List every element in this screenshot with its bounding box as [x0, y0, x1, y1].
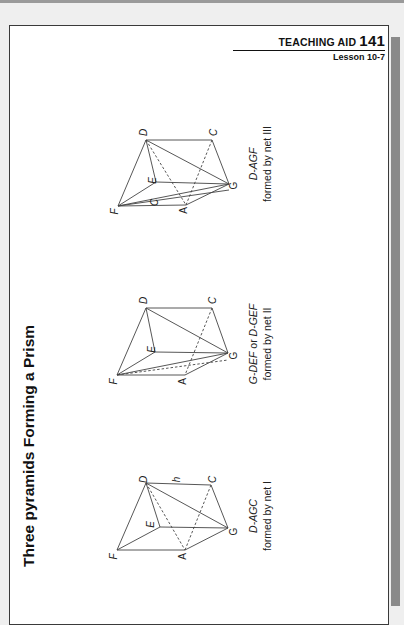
label-D: D	[138, 129, 149, 136]
label-E: E	[147, 177, 158, 184]
pyramid-name: D-AGC	[247, 499, 259, 533]
label-C-hidden: C	[149, 199, 160, 206]
label-C: C	[207, 476, 218, 483]
label-D: D	[138, 297, 149, 304]
pyramid-name-a: G-DEF	[247, 352, 259, 385]
pyramid-desc: formed by net III	[260, 114, 274, 214]
label-G: G	[228, 528, 239, 536]
label-D: D	[138, 476, 149, 483]
label-A: A	[177, 378, 188, 385]
caption-net-I: D-AGC formed by net I	[246, 466, 274, 566]
or-text: or	[247, 336, 259, 351]
pyramid-name-b: D-GEF	[247, 304, 259, 337]
label-E: E	[145, 521, 156, 528]
pyramid-name: D-AGF	[247, 148, 259, 181]
figure-net-I	[117, 483, 228, 550]
page-title: Three pyramids Forming a Prism	[20, 327, 38, 567]
label-G: G	[228, 182, 239, 190]
label-F: F	[108, 553, 119, 559]
pyramid-desc: formed by net II	[260, 294, 274, 394]
label-F: F	[108, 378, 119, 384]
label-h: h	[171, 477, 182, 483]
label-A: A	[177, 553, 188, 560]
figure-net-III	[118, 140, 229, 206]
caption-net-III: D-AGF formed by net III	[246, 114, 274, 214]
figure-net-II	[117, 308, 228, 375]
pyramid-desc: formed by net I	[260, 466, 274, 566]
label-F: F	[109, 208, 120, 214]
label-C: C	[207, 297, 218, 304]
label-G: G	[228, 352, 239, 360]
caption-net-II: G-DEF or D-GEF formed by net II	[246, 294, 274, 394]
label-E: E	[146, 346, 157, 353]
label-C: C	[208, 129, 219, 136]
label-A: A	[178, 207, 189, 214]
